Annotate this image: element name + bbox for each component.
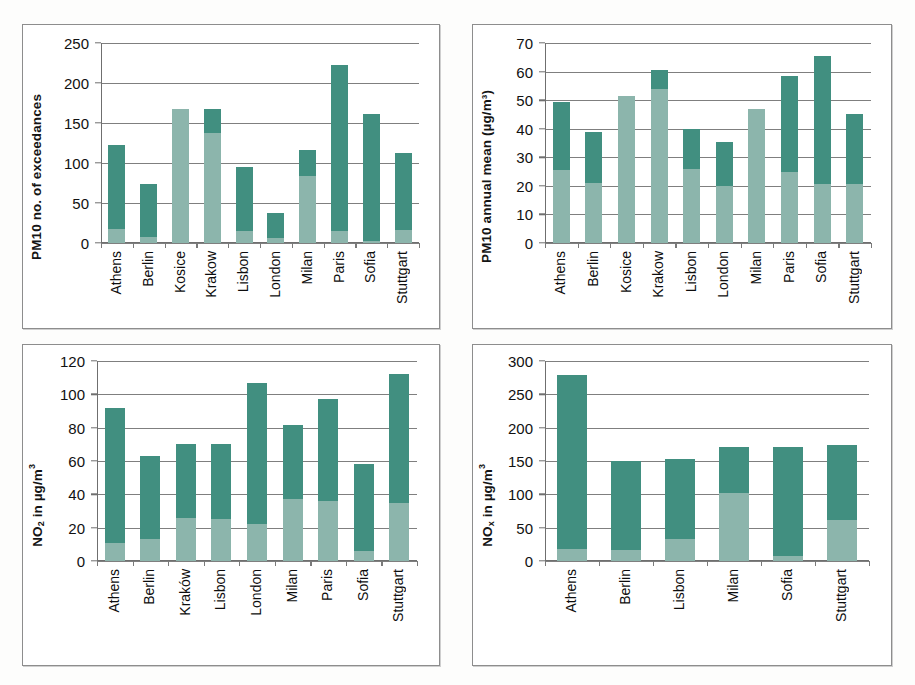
nox-formula-sub: x	[486, 521, 496, 526]
bar-milan[interactable]	[283, 425, 303, 561]
gridline	[545, 361, 869, 362]
bar-segment-lower	[140, 539, 160, 561]
bar-athens[interactable]	[553, 102, 570, 243]
x-tick-mark	[419, 243, 420, 248]
y-axis-line	[101, 43, 102, 243]
bar-segment-lower	[108, 229, 125, 243]
bar-paris[interactable]	[318, 399, 338, 561]
bar-segment-upper	[611, 461, 641, 561]
bar-segment-lower	[267, 238, 284, 243]
panel-nox: NOx in µg/m3 050100150200250300AthensBer…	[472, 344, 892, 666]
x-axis-label: Kraków	[178, 569, 192, 616]
x-tick-mark	[708, 243, 709, 248]
bar-segment-lower	[651, 89, 668, 243]
bar-segment-lower	[611, 550, 641, 561]
x-tick-mark	[599, 561, 600, 566]
bar-lisbon[interactable]	[683, 129, 700, 243]
x-axis-label: Lisbon	[236, 251, 250, 292]
panel-pm10-exceedances: PM10 no. of exceedances 050100150200250A…	[22, 24, 440, 329]
bar-london[interactable]	[247, 383, 267, 561]
y-axis-line	[97, 361, 98, 561]
plot-area: 020406080100120AthensBerlinKrakówLisbonL…	[97, 361, 417, 561]
bar-stuttgart[interactable]	[389, 374, 409, 562]
bar-milan[interactable]	[719, 447, 749, 561]
y-axis-title-text: NO2 in µg/m3	[28, 464, 46, 547]
x-tick-mark	[806, 243, 807, 248]
x-axis-label: Milan	[726, 569, 740, 602]
bar-berlin[interactable]	[140, 456, 160, 561]
y-axis-title-pm10-annual-mean: PM10 annual mean (µg/m³)	[475, 25, 499, 328]
x-tick-mark	[675, 243, 676, 248]
x-axis-label: Athens	[107, 569, 121, 613]
x-tick-mark	[204, 561, 205, 566]
x-tick-mark	[101, 243, 102, 248]
x-axis-label: London	[268, 251, 282, 298]
bar-segment-upper	[354, 464, 374, 561]
y-tick-label: 300	[508, 353, 533, 370]
bar-athens[interactable]	[105, 408, 125, 561]
x-tick-mark	[346, 561, 347, 566]
y-tick-label: 120	[60, 353, 85, 370]
bar-segment-lower	[354, 551, 374, 561]
bar-athens[interactable]	[557, 375, 587, 561]
bar-segment-lower	[211, 519, 231, 561]
bar-segment-lower	[814, 184, 831, 243]
bar-berlin[interactable]	[585, 132, 602, 243]
x-tick-mark	[133, 561, 134, 566]
bar-krakow[interactable]	[651, 70, 668, 243]
y-tick-label: 200	[64, 75, 89, 92]
bar-stuttgart[interactable]	[846, 114, 863, 243]
bar-lisbon[interactable]	[236, 167, 253, 243]
x-axis-label: Berlin	[142, 569, 156, 605]
x-tick-mark	[761, 561, 762, 566]
x-axis-label: Lisbon	[672, 569, 686, 610]
y-tick-label: 150	[508, 453, 533, 470]
bar-segment-lower	[299, 176, 316, 243]
bar-krakw[interactable]	[176, 444, 196, 562]
bar-berlin[interactable]	[140, 184, 157, 243]
y-tick-label: 150	[64, 115, 89, 132]
x-tick-mark	[838, 243, 839, 248]
bar-athens[interactable]	[108, 145, 125, 243]
x-tick-mark	[292, 243, 293, 248]
x-tick-mark	[381, 561, 382, 566]
x-axis-label: Stuttgart	[391, 569, 405, 622]
bar-stuttgart[interactable]	[827, 445, 857, 561]
bar-segment-lower	[683, 169, 700, 243]
x-tick-mark	[545, 243, 546, 248]
x-axis-label: Kosice	[619, 251, 633, 293]
bar-milan[interactable]	[748, 109, 765, 243]
bar-segment-lower	[176, 518, 196, 561]
bar-stuttgart[interactable]	[395, 153, 412, 243]
x-axis-label: Kosice	[173, 251, 187, 293]
y-tick-label: 250	[508, 386, 533, 403]
bar-paris[interactable]	[781, 76, 798, 243]
bar-lisbon[interactable]	[211, 444, 231, 561]
bar-segment-lower	[331, 231, 348, 243]
bar-paris[interactable]	[331, 65, 348, 243]
bar-kosice[interactable]	[618, 96, 635, 243]
bar-sofia[interactable]	[814, 56, 831, 243]
bar-sofia[interactable]	[773, 447, 803, 561]
x-axis-label: Athens	[553, 251, 567, 295]
bar-london[interactable]	[716, 142, 733, 243]
bar-london[interactable]	[267, 213, 284, 243]
bar-kosice[interactable]	[172, 109, 189, 243]
bar-milan[interactable]	[299, 150, 316, 243]
bar-sofia[interactable]	[354, 464, 374, 561]
x-axis-label: Paris	[320, 569, 334, 601]
bar-lisbon[interactable]	[665, 459, 695, 561]
bar-segment-lower	[557, 549, 587, 561]
bar-sofia[interactable]	[363, 114, 380, 243]
bar-krakow[interactable]	[204, 109, 221, 243]
bar-segment-lower	[283, 499, 303, 561]
y-axis-line	[545, 43, 546, 243]
bar-segment-lower	[665, 539, 695, 561]
bar-berlin[interactable]	[611, 461, 641, 561]
x-tick-mark	[168, 561, 169, 566]
bar-segment-lower	[395, 230, 412, 243]
bar-segment-lower	[140, 237, 157, 243]
x-axis-label: Athens	[109, 251, 123, 295]
y-tick-label: 80	[68, 419, 85, 436]
y-axis-title-text: PM10 no. of exceedances	[30, 94, 44, 260]
